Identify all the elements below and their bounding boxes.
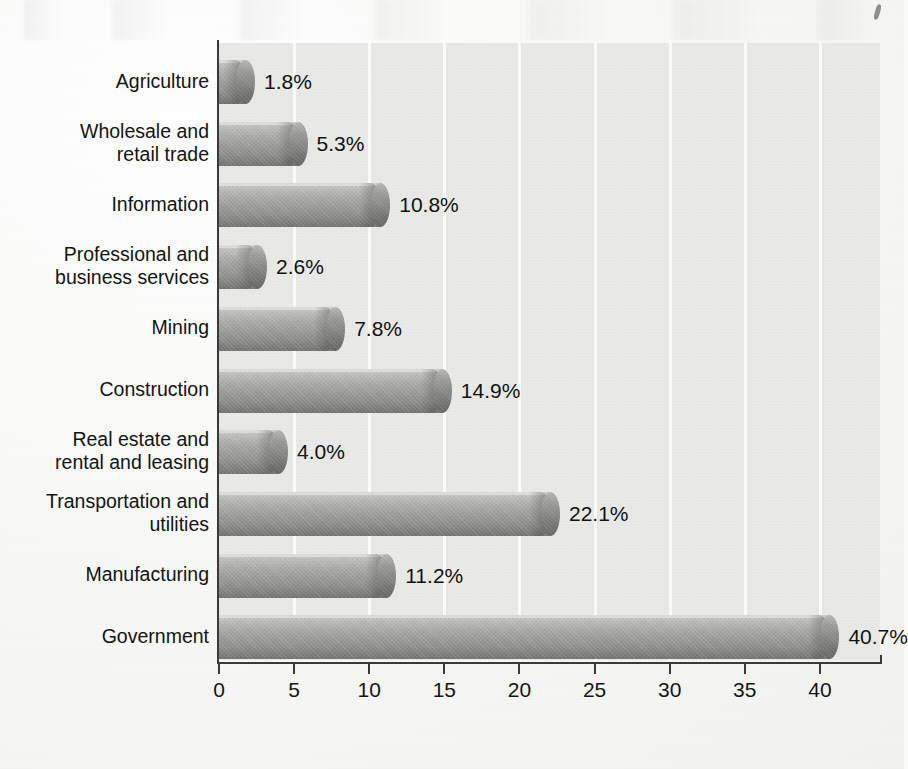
data-label: 11.2% bbox=[405, 564, 463, 588]
bar-highlight bbox=[219, 369, 435, 372]
gridline-30 bbox=[669, 43, 672, 660]
x-tick-30 bbox=[669, 663, 671, 674]
x-tick-label-10: 10 bbox=[358, 678, 381, 702]
bar bbox=[219, 122, 299, 166]
bar-end-cap bbox=[541, 492, 560, 536]
bar-end-cap bbox=[236, 60, 255, 104]
data-label: 7.8% bbox=[354, 317, 402, 341]
bar-end-cap bbox=[289, 122, 308, 166]
x-tick-25 bbox=[594, 663, 596, 674]
x-axis-end-cap bbox=[880, 655, 882, 664]
data-label: 1.8% bbox=[264, 70, 312, 94]
x-tick-label-40: 40 bbox=[808, 678, 831, 702]
bar-body bbox=[219, 615, 830, 659]
x-tick-15 bbox=[443, 663, 445, 674]
x-tick-label-5: 5 bbox=[288, 678, 300, 702]
bar-end-cap bbox=[433, 369, 452, 413]
gridline-25 bbox=[594, 43, 597, 660]
category-label: Government bbox=[4, 625, 209, 648]
category-label: Construction bbox=[4, 378, 209, 401]
x-tick-10 bbox=[368, 663, 370, 674]
data-label: 40.7% bbox=[848, 625, 908, 649]
bar-end-cap bbox=[248, 245, 267, 289]
bar bbox=[219, 615, 830, 659]
data-label: 2.6% bbox=[276, 255, 324, 279]
bar bbox=[219, 554, 387, 598]
bar-end-cap bbox=[326, 307, 345, 351]
gridline-40 bbox=[819, 43, 822, 660]
x-tick-label-30: 30 bbox=[658, 678, 681, 702]
x-tick-0 bbox=[218, 663, 220, 674]
bar bbox=[219, 430, 279, 474]
bar-body bbox=[219, 369, 443, 413]
bar-highlight bbox=[219, 554, 379, 557]
bar-highlight bbox=[219, 492, 543, 495]
gridline-20 bbox=[518, 43, 521, 660]
bar bbox=[219, 369, 443, 413]
category-label: Mining bbox=[4, 316, 209, 339]
category-label: Professional and business services bbox=[4, 243, 209, 289]
bar-body bbox=[219, 554, 387, 598]
x-tick-label-0: 0 bbox=[213, 678, 225, 702]
bar bbox=[219, 492, 551, 536]
category-label: Transportation and utilities bbox=[4, 490, 209, 536]
bar-body bbox=[219, 183, 381, 227]
bar bbox=[219, 245, 258, 289]
data-label: 4.0% bbox=[297, 440, 345, 464]
x-tick-40 bbox=[819, 663, 821, 674]
x-tick-label-25: 25 bbox=[583, 678, 606, 702]
category-label: Manufacturing bbox=[4, 563, 209, 586]
bar-body bbox=[219, 492, 551, 536]
category-label: Agriculture bbox=[4, 70, 209, 93]
bar-highlight bbox=[219, 615, 822, 618]
x-tick-35 bbox=[744, 663, 746, 674]
category-label: Information bbox=[4, 193, 209, 216]
bar-end-cap bbox=[377, 554, 396, 598]
data-label: 22.1% bbox=[569, 502, 629, 526]
x-tick-5 bbox=[293, 663, 295, 674]
category-label: Real estate and rental and leasing bbox=[4, 428, 209, 474]
bar bbox=[219, 307, 336, 351]
bar bbox=[219, 60, 246, 104]
x-tick-label-15: 15 bbox=[433, 678, 456, 702]
bar bbox=[219, 183, 381, 227]
gridline-35 bbox=[744, 43, 747, 660]
x-tick-20 bbox=[518, 663, 520, 674]
data-label: 10.8% bbox=[399, 193, 459, 217]
x-axis-line bbox=[217, 662, 882, 664]
x-tick-label-20: 20 bbox=[508, 678, 531, 702]
category-label: Wholesale and retail trade bbox=[4, 120, 209, 166]
x-tick-label-35: 35 bbox=[733, 678, 756, 702]
data-label: 14.9% bbox=[461, 379, 521, 403]
bar-highlight bbox=[219, 183, 373, 186]
data-label: 5.3% bbox=[317, 132, 365, 156]
bar-highlight bbox=[219, 307, 328, 310]
